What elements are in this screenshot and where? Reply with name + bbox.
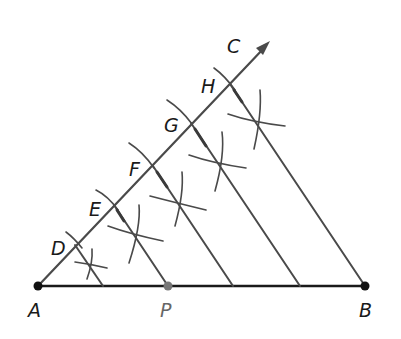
label-g: G <box>164 116 179 135</box>
label-a: A <box>28 301 41 320</box>
label-b: B <box>359 301 372 320</box>
arc-cross-h2 <box>254 90 260 149</box>
label-p: P <box>160 301 171 320</box>
label-f: F <box>129 160 140 179</box>
arc-cross-f1 <box>150 196 206 210</box>
label-c: C <box>227 37 240 56</box>
tick-g <box>195 129 206 146</box>
diagram-svg <box>0 0 401 339</box>
parallel-line-g <box>191 123 300 286</box>
tick-e <box>117 210 124 221</box>
point-a <box>34 282 43 291</box>
point-p <box>164 282 173 291</box>
tick-h <box>234 90 242 102</box>
label-e: E <box>89 200 101 219</box>
label-h: H <box>201 77 215 96</box>
tick-f <box>157 172 167 187</box>
arc-mark-h <box>214 68 235 90</box>
parallel-line-h <box>230 84 365 286</box>
label-d: D <box>51 239 66 258</box>
arc-mark-d <box>66 232 82 248</box>
point-b <box>361 282 370 291</box>
construction-diagram: A B P C D E F G H <box>0 0 401 339</box>
